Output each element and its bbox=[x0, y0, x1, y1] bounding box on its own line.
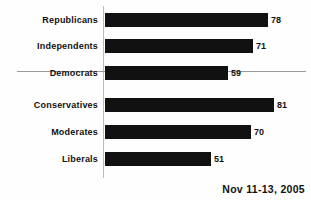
table-row: Moderates 70 bbox=[0, 125, 311, 139]
bar-shape-conservatives bbox=[105, 98, 274, 112]
table-row: Republicans 78 bbox=[0, 13, 311, 27]
bar-shape-moderates bbox=[105, 125, 251, 139]
bar-label-moderates: Moderates bbox=[0, 125, 98, 139]
bar-label-republicans: Republicans bbox=[0, 13, 98, 27]
bar-shape-independents bbox=[105, 39, 253, 53]
table-row: Independents 71 bbox=[0, 39, 311, 53]
table-row: Liberals 51 bbox=[0, 152, 311, 166]
bar-label-independents: Independents bbox=[0, 39, 98, 53]
bar-label-conservatives: Conservatives bbox=[0, 98, 98, 112]
bar-shape-democrats bbox=[105, 66, 228, 80]
bar-shape-liberals bbox=[105, 152, 211, 166]
bar-label-democrats: Democrats bbox=[0, 66, 98, 80]
bar-chart: Republicans 78 Independents 71 Democrats… bbox=[0, 0, 311, 200]
table-row: Democrats 59 bbox=[0, 66, 311, 80]
bar-value-independents: 71 bbox=[256, 39, 266, 53]
bar-value-moderates: 70 bbox=[254, 125, 264, 139]
bar-shape-republicans bbox=[105, 13, 268, 27]
survey-date-annotation: Nov 11-13, 2005 bbox=[222, 183, 305, 195]
bar-value-republicans: 78 bbox=[271, 13, 281, 27]
table-row: Conservatives 81 bbox=[0, 98, 311, 112]
bar-label-liberals: Liberals bbox=[0, 152, 98, 166]
bar-value-liberals: 51 bbox=[214, 152, 224, 166]
bar-value-democrats: 59 bbox=[231, 66, 241, 80]
bar-value-conservatives: 81 bbox=[277, 98, 287, 112]
